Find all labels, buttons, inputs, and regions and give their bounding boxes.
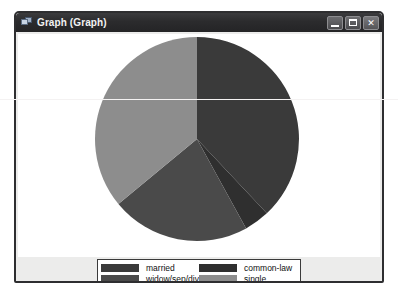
legend-item-single[interactable]: single (199, 274, 297, 283)
legend-swatch-widow-sep-div (101, 275, 139, 283)
legend-item-married[interactable]: married (101, 262, 199, 273)
legend-item-widow-sep-div[interactable]: widow/sep/div (101, 274, 199, 283)
pie-chart-svg (94, 36, 300, 242)
legend-item-common-law[interactable]: common-law (199, 262, 297, 273)
chart-legend: married common-law widow/sep/div single (97, 259, 301, 283)
legend-label-widow-sep-div: widow/sep/div (146, 274, 199, 283)
legend-swatch-common-law (199, 264, 237, 272)
legend-swatch-married (101, 264, 139, 272)
pie-chart (94, 36, 300, 242)
close-icon: ✕ (364, 17, 378, 29)
legend-label-common-law: common-law (244, 263, 292, 273)
window-titlebar[interactable]: Graph (Graph) ✕ (16, 13, 382, 32)
legend-swatch-single (199, 275, 237, 283)
maximize-button[interactable] (345, 16, 361, 30)
legend-label-married: married (146, 263, 175, 273)
graph-window-icon (21, 17, 32, 28)
close-button[interactable]: ✕ (363, 16, 379, 30)
legend-label-single: single (244, 274, 266, 283)
graph-window[interactable]: Graph (Graph) ✕ married c (14, 11, 384, 283)
window-title: Graph (Graph) (37, 17, 325, 28)
window-client-area: married common-law widow/sep/div single (16, 32, 382, 281)
minimize-button[interactable] (327, 16, 343, 30)
chart-plot-panel (18, 34, 380, 257)
